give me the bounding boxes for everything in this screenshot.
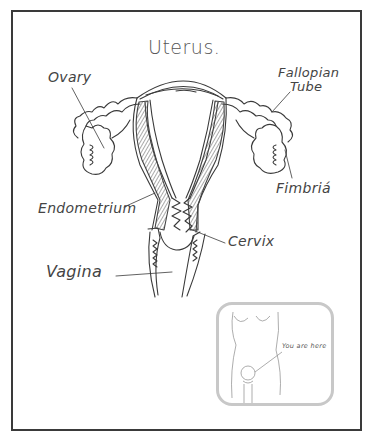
leader-fimbria	[285, 150, 292, 178]
label-vagina: Vagina	[46, 262, 102, 281]
ovary-left	[81, 125, 115, 174]
label-cervix: Cervix	[228, 233, 274, 249]
fundus-outline	[137, 81, 226, 98]
label-endometrium: Endometrium	[38, 200, 136, 216]
label-fimbria: Fimbriá	[276, 180, 331, 196]
cervix-canal	[172, 198, 181, 230]
diagram-title: Uterus.	[148, 36, 220, 58]
leader-vagina	[116, 272, 172, 276]
label-fallopian-tube: Fallopian Tube	[278, 66, 339, 94]
label-fallopian-line2: Tube	[278, 80, 339, 94]
label-ovary: Ovary	[48, 69, 91, 85]
ovary-right	[251, 124, 286, 173]
leader-fallopian	[272, 92, 290, 112]
inset-caption: You are here	[282, 342, 327, 350]
location-inset	[216, 302, 334, 406]
label-fallopian-line1: Fallopian	[278, 66, 339, 80]
